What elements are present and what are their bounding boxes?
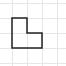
grid-diagram bbox=[0, 0, 66, 66]
